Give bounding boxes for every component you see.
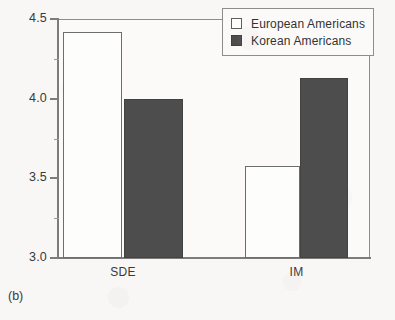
legend: European Americans Korean Americans	[222, 8, 374, 56]
y-axis-tick-label: 3.0	[1, 250, 47, 264]
y-axis-tick-label: 4.0	[1, 91, 47, 105]
x-axis-label-im: IM	[257, 265, 337, 279]
bar-korean-americans-im	[300, 78, 348, 258]
legend-item: Korean Americans	[231, 32, 365, 49]
legend-swatch-open-square-icon	[231, 18, 242, 29]
y-axis-tick-label: 3.5	[1, 170, 47, 184]
legend-item: European Americans	[231, 15, 365, 32]
legend-label: European Americans	[251, 17, 365, 31]
bar-korean-americans-sde	[124, 99, 183, 258]
bar-european-americans-sde	[63, 32, 122, 258]
figure-panel-b: 4.54.03.53.0 SDEIM European Americans Ko…	[0, 0, 395, 320]
legend-swatch-filled-square-icon	[231, 35, 242, 46]
x-axis-label-sde: SDE	[83, 265, 163, 279]
legend-label: Korean Americans	[251, 34, 351, 48]
figure-caption: (b)	[8, 289, 23, 303]
y-axis-tick-label: 4.5	[1, 11, 47, 25]
bar-european-americans-im	[245, 166, 300, 258]
